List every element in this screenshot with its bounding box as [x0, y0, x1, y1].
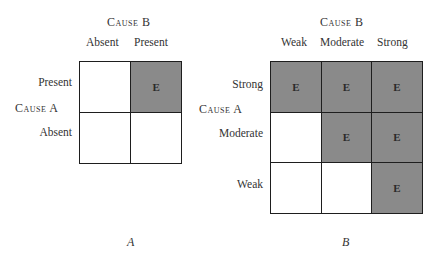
panel-a-cell-present-absent [79, 61, 131, 113]
panel-a-column-label-present: Present [134, 36, 168, 48]
panel-b-row-axis-title: Cause A [199, 102, 242, 117]
panel-b-cell-strong-moderate: E [321, 61, 373, 113]
panel-b-row-label-strong: Strong [232, 78, 263, 90]
effect-marker: E [152, 81, 159, 93]
panel-a-row-label-present: Present [38, 76, 72, 88]
panel-a-row-axis-title: Cause A [15, 101, 58, 116]
panel-b-cell-moderate-strong: E [371, 112, 423, 164]
panel-b-column-axis-title: Cause B [320, 15, 363, 30]
panel-b-cell-weak-weak [270, 162, 322, 214]
effect-marker: E [292, 81, 299, 93]
panel-b-cell-strong-weak: E [270, 61, 322, 113]
panel-b-row-label-weak: Weak [237, 178, 263, 190]
effect-marker: E [393, 182, 400, 194]
panel-b-label: B [342, 235, 349, 250]
panel-a-cell-present-present: E [130, 61, 182, 113]
panel-b-cell-strong-strong: E [371, 61, 423, 113]
panel-b-column-label-moderate: Moderate [320, 36, 364, 48]
effect-marker: E [393, 81, 400, 93]
effect-marker: E [393, 131, 400, 143]
panel-a-cell-absent-present [130, 112, 182, 164]
panel-b-column-label-strong: Strong [377, 36, 408, 48]
panel-b-cell-weak-strong: E [371, 162, 423, 214]
panel-b-cell-moderate-moderate: E [321, 112, 373, 164]
panel-b-cell-weak-moderate [321, 162, 373, 214]
panel-a-cell-absent-absent [79, 112, 131, 164]
panel-a-column-label-absent: Absent [86, 36, 119, 48]
panel-a-label: A [127, 235, 134, 250]
effect-marker: E [343, 131, 350, 143]
panel-b-column-label-weak: Weak [281, 36, 307, 48]
panel-b-row-label-moderate: Moderate [219, 127, 263, 139]
panel-b-cell-moderate-weak [270, 112, 322, 164]
effect-marker: E [343, 81, 350, 93]
panel-a-row-label-absent: Absent [39, 126, 72, 138]
panel-a-column-axis-title: Cause B [107, 15, 150, 30]
